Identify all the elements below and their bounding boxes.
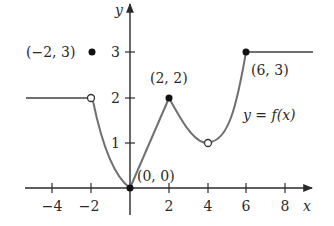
x-tick-label: −2 bbox=[79, 198, 100, 214]
filled-point-neg2-3 bbox=[89, 49, 96, 56]
y-tick-label: 1 bbox=[111, 135, 120, 151]
filled-point-2-2 bbox=[166, 95, 173, 102]
x-tick-label: 2 bbox=[165, 198, 174, 214]
y-tick-label: 3 bbox=[111, 44, 120, 60]
y-axis-label: y bbox=[114, 2, 124, 18]
filled-point-0-0 bbox=[127, 185, 134, 192]
open-point-4-1 bbox=[205, 140, 212, 147]
point-label-neg2-3: (−2, 3) bbox=[26, 44, 75, 60]
open-point-neg2-2 bbox=[88, 95, 95, 102]
function-label: y = f(x) bbox=[242, 107, 296, 123]
piece-curve-up bbox=[211, 52, 246, 142]
x-tick-label: 8 bbox=[281, 198, 290, 214]
x-tick-label: 6 bbox=[242, 198, 251, 214]
x-tick-label: −4 bbox=[42, 198, 63, 214]
x-axis-label: x bbox=[303, 198, 311, 214]
function-graph: −4 −2 2 4 6 8 1 2 3 y x (−2, 3) (0, 0) (… bbox=[0, 0, 334, 226]
x-tick-label: 4 bbox=[204, 198, 213, 214]
piece-curve-down bbox=[169, 98, 205, 143]
point-label-6-3: (6, 3) bbox=[251, 62, 289, 78]
x-tick-labels: −4 −2 2 4 6 8 bbox=[42, 198, 290, 214]
y-tick-label: 2 bbox=[111, 90, 120, 106]
point-label-2-2: (2, 2) bbox=[150, 70, 188, 86]
y-tick-labels: 1 2 3 bbox=[111, 44, 120, 151]
filled-point-6-3 bbox=[243, 49, 250, 56]
point-label-0-0: (0, 0) bbox=[137, 168, 175, 184]
